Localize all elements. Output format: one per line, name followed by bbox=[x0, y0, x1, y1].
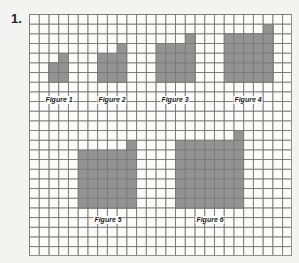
figure-label-2: Figure 2 bbox=[97, 96, 126, 104]
figure-5-square bbox=[78, 150, 137, 209]
figure-4-extra-cell bbox=[263, 24, 274, 35]
figure-5-extra-cell bbox=[126, 140, 137, 151]
figure-2-extra-cell bbox=[117, 43, 128, 54]
figure-4-square bbox=[224, 33, 274, 82]
figure-3-extra-cell bbox=[185, 33, 196, 44]
figure-label-6: Figure 6 bbox=[195, 216, 224, 224]
figure-label-1: Figure 1 bbox=[44, 96, 73, 104]
figure-6-square bbox=[175, 140, 244, 209]
figure-label-4: Figure 4 bbox=[233, 96, 262, 104]
figure-6-extra-cell bbox=[234, 130, 245, 141]
figure-label-3: Figure 3 bbox=[160, 96, 189, 104]
figure-label-5: Figure 5 bbox=[93, 216, 122, 224]
figure-3-square bbox=[156, 43, 196, 83]
figure-1-extra-cell bbox=[58, 53, 69, 64]
figure-2-square bbox=[97, 53, 127, 83]
problem-number: 1. bbox=[11, 11, 22, 26]
graph-paper-grid bbox=[29, 14, 292, 256]
figure-1-square bbox=[48, 62, 68, 82]
